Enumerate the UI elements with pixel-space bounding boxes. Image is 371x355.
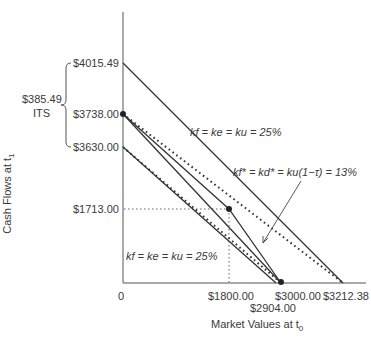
its-brace <box>61 63 71 147</box>
y-tick-3630: $3630.00 <box>73 141 119 153</box>
x-tick-0: 0 <box>118 290 124 302</box>
equation-middle: kf* = kd* = ku(1−τ) = 13% <box>233 166 357 178</box>
x-tick-2904: $2904.00 <box>250 302 296 314</box>
equation-lower: kf = ke = ku = 25% <box>126 250 217 262</box>
annotation-arrow <box>263 181 301 243</box>
point-3738 <box>120 111 126 117</box>
y-tick-1713: $1713.00 <box>73 203 119 215</box>
x-tick-3212: $3212.38 <box>323 290 369 302</box>
y-axis-title: Cash Flows at t1 <box>1 153 16 233</box>
point-3000 <box>278 279 284 285</box>
equation-upper: kf = ke = ku = 25% <box>190 126 281 138</box>
point-1800-1713 <box>226 206 232 212</box>
y-tick-3738: $3738.00 <box>73 108 119 120</box>
x-axis-title: Market Values at t0 <box>211 318 303 335</box>
x-tick-3000: $3000.00 <box>275 290 321 302</box>
y-tick-4015: $4015.49 <box>73 57 119 69</box>
its-value: $385.49 <box>22 93 62 105</box>
its-label: ITS <box>33 107 50 119</box>
x-tick-1800: $1800.00 <box>208 290 254 302</box>
